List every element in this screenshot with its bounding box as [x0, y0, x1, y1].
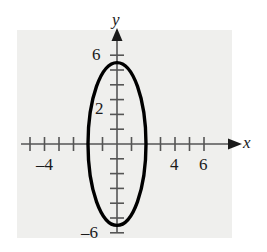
x-tick-label-6: 6 [199, 156, 208, 173]
x-axis-arrowhead [228, 139, 242, 150]
y-tick-label-2: 2 [95, 100, 104, 117]
x-axis-label: x [243, 134, 251, 151]
x-tick-label-minus4: –4 [36, 156, 53, 173]
y-axis-arrowhead [112, 28, 123, 41]
x-tick-label-4: 4 [170, 156, 179, 173]
coordinate-plane-graphic [0, 0, 267, 252]
figure-container: y x –4 4 6 6 2 –6 [0, 0, 267, 252]
y-axis-label: y [112, 11, 120, 28]
y-tick-label-minus6: –6 [81, 224, 98, 241]
y-tick-label-6: 6 [92, 46, 101, 63]
